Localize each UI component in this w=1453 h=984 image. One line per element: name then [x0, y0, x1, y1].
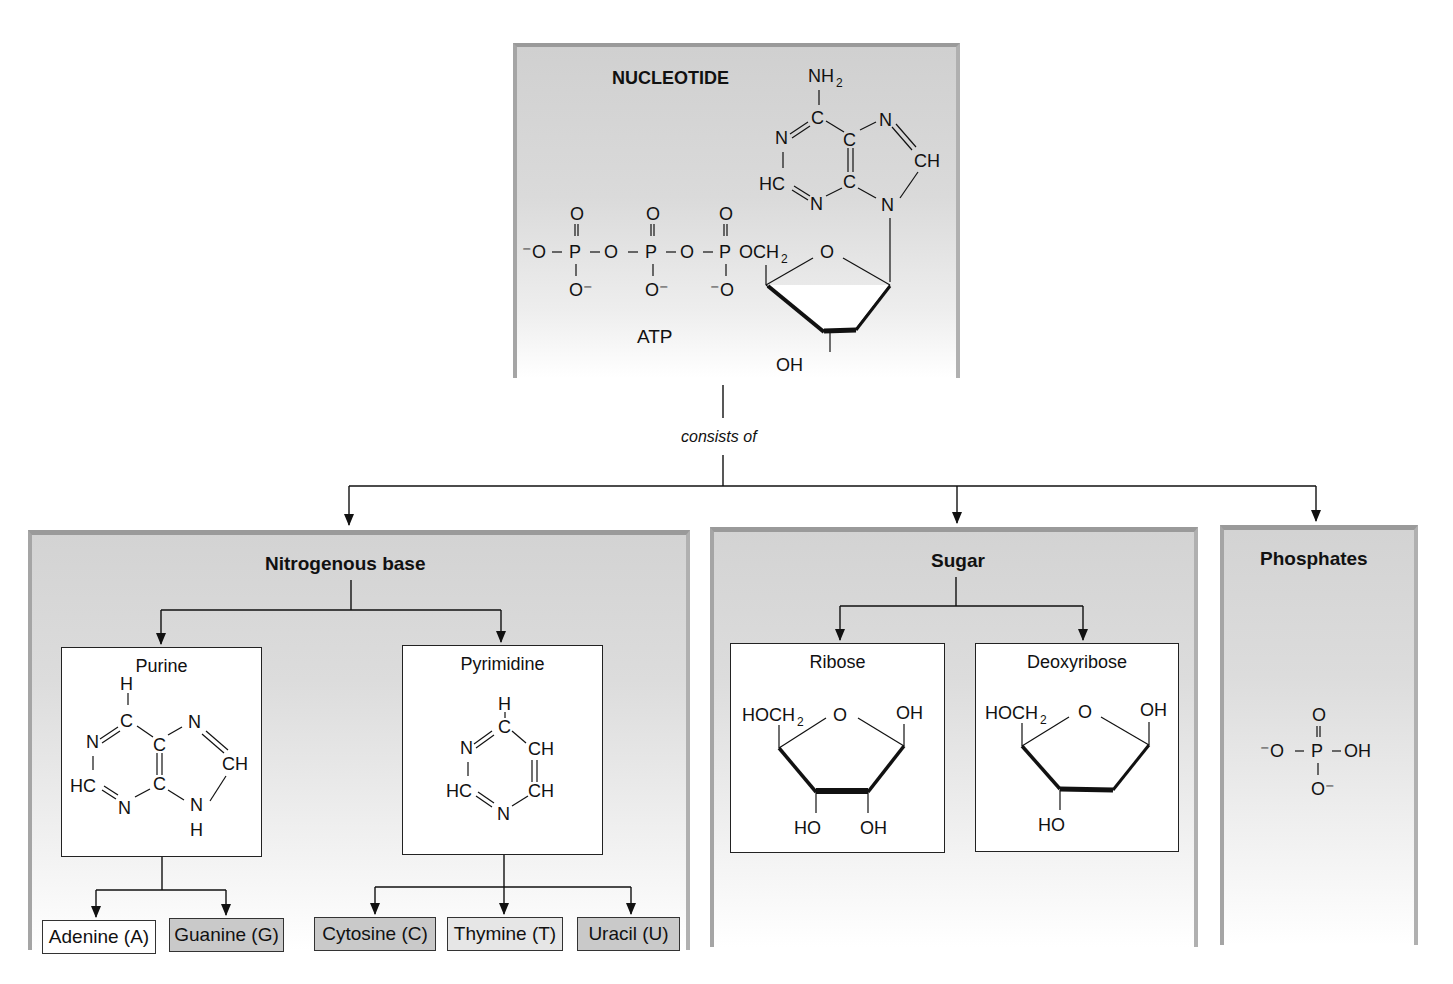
- svg-text:⁻O: ⁻O: [1260, 741, 1284, 761]
- svg-text:OH: OH: [776, 355, 803, 375]
- svg-text:CH: CH: [914, 151, 940, 171]
- svg-text:N: N: [775, 128, 788, 148]
- svg-text:HO: HO: [1038, 815, 1065, 835]
- svg-text:P: P: [719, 242, 731, 262]
- svg-text:CH: CH: [222, 754, 248, 774]
- svg-text:OH: OH: [1344, 741, 1371, 761]
- svg-text:P: P: [645, 242, 657, 262]
- svg-text:N: N: [879, 110, 892, 130]
- svg-text:2: 2: [781, 252, 788, 266]
- purine-structure: H C N C N CH HC C N N H: [70, 674, 248, 840]
- svg-text:N: N: [460, 738, 473, 758]
- svg-text:O: O: [570, 204, 584, 224]
- svg-text:O: O: [1312, 705, 1326, 725]
- svg-text:O: O: [719, 204, 733, 224]
- svg-text:O⁻: O⁻: [569, 280, 593, 300]
- svg-text:HC: HC: [70, 776, 96, 796]
- svg-text:OCH: OCH: [739, 242, 779, 262]
- svg-text:O: O: [833, 705, 847, 725]
- svg-text:C: C: [843, 172, 856, 192]
- svg-text:NH: NH: [808, 66, 834, 86]
- svg-text:H: H: [190, 820, 203, 840]
- svg-text:C: C: [120, 711, 133, 731]
- ribose-structure: HOCH2 O OH HO OH: [742, 703, 923, 838]
- svg-text:HOCH: HOCH: [985, 703, 1038, 723]
- svg-text:CH: CH: [528, 739, 554, 759]
- atp-structure: NH2 C N C N CH HC C N N O O O ⁻O P O P O…: [522, 66, 940, 375]
- svg-text:C: C: [153, 774, 166, 794]
- svg-text:O⁻: O⁻: [645, 280, 669, 300]
- svg-text:N: N: [810, 194, 823, 214]
- svg-text:⁻O: ⁻O: [522, 242, 546, 262]
- svg-text:H: H: [498, 694, 511, 714]
- svg-text:O: O: [646, 204, 660, 224]
- svg-text:C: C: [153, 735, 166, 755]
- svg-text:O: O: [604, 242, 618, 262]
- svg-text:HC: HC: [446, 781, 472, 801]
- svg-text:N: N: [118, 798, 131, 818]
- svg-text:2: 2: [797, 715, 804, 729]
- svg-text:N: N: [188, 712, 201, 732]
- svg-text:2: 2: [836, 76, 843, 90]
- svg-text:H: H: [120, 674, 133, 694]
- deoxyribose-structure: HOCH2 O OH HO: [985, 700, 1167, 835]
- svg-text:OH: OH: [860, 818, 887, 838]
- svg-text:2: 2: [1040, 713, 1047, 727]
- svg-text:CH: CH: [528, 781, 554, 801]
- svg-text:⁻O: ⁻O: [710, 280, 734, 300]
- svg-text:N: N: [881, 195, 894, 215]
- svg-text:O: O: [1078, 702, 1092, 722]
- svg-text:N: N: [497, 804, 510, 824]
- svg-text:N: N: [86, 732, 99, 752]
- svg-text:O: O: [680, 242, 694, 262]
- svg-text:HOCH: HOCH: [742, 705, 795, 725]
- svg-text:OH: OH: [1140, 700, 1167, 720]
- svg-text:OH: OH: [896, 703, 923, 723]
- diagram-lines: NH2 C N C N CH HC C N N O O O ⁻O P O P O…: [0, 0, 1453, 984]
- svg-text:O: O: [820, 242, 834, 262]
- svg-text:HC: HC: [759, 174, 785, 194]
- svg-text:O⁻: O⁻: [1311, 779, 1335, 799]
- svg-text:HO: HO: [794, 818, 821, 838]
- svg-text:C: C: [811, 108, 824, 128]
- svg-text:C: C: [498, 717, 511, 737]
- svg-text:P: P: [1311, 741, 1323, 761]
- svg-text:C: C: [843, 130, 856, 150]
- pyrimidine-structure: H C N CH HC CH N: [446, 694, 554, 824]
- svg-text:P: P: [569, 242, 581, 262]
- phosphate-structure: O ⁻O P OH O⁻: [1260, 705, 1371, 799]
- svg-text:N: N: [190, 795, 203, 815]
